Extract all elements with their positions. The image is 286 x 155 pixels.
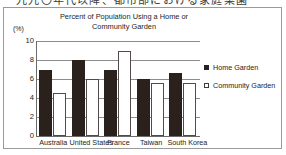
bar-community-garden bbox=[86, 79, 99, 136]
plot-area: 0246810 bbox=[37, 41, 200, 136]
bar-home-garden bbox=[72, 60, 85, 136]
bar-group bbox=[70, 41, 103, 136]
legend-label-community-garden: Community Garden bbox=[213, 81, 275, 90]
legend-item-home-garden: Home Garden bbox=[204, 63, 280, 72]
chart-title-line-1: Percent of Population Using a Home or bbox=[60, 12, 188, 21]
cropped-header-text: 一九九〇年代以降、都市部における家庭菜園 bbox=[4, 0, 248, 6]
y-axis-tick-label: 4 bbox=[30, 94, 34, 102]
legend-swatch-filled-square-icon bbox=[204, 65, 209, 70]
bar-home-garden bbox=[104, 70, 117, 137]
x-axis-category-label: United States bbox=[70, 138, 103, 147]
bar-group bbox=[37, 41, 70, 136]
figure-frame: Percent of Population Using a Home or Co… bbox=[3, 7, 282, 149]
y-axis-unit-label: (%) bbox=[13, 25, 24, 32]
bar-home-garden bbox=[39, 70, 52, 137]
legend-label-home-garden: Home Garden bbox=[213, 63, 258, 72]
cropped-header-text-strip: 一九九〇年代以降、都市部における家庭菜園 bbox=[0, 0, 286, 6]
bar-group bbox=[167, 41, 200, 136]
x-axis-category-label: Australia bbox=[37, 138, 70, 147]
bar-group bbox=[135, 41, 168, 136]
x-axis-line bbox=[36, 136, 200, 137]
bar-community-garden bbox=[151, 83, 164, 136]
bar-community-garden bbox=[118, 51, 131, 137]
bar-community-garden bbox=[53, 93, 66, 136]
y-axis-tick-label: 10 bbox=[26, 37, 34, 45]
x-axis-category-label: South Korea bbox=[167, 138, 200, 147]
bar-group bbox=[102, 41, 135, 136]
y-axis-tick-label: 8 bbox=[30, 56, 34, 64]
bar-community-garden bbox=[183, 83, 196, 136]
bar-home-garden bbox=[137, 79, 150, 136]
x-axis-category-label: France bbox=[102, 138, 135, 147]
legend-item-community-garden: Community Garden bbox=[204, 81, 280, 90]
chart-title-line-2: Community Garden bbox=[92, 22, 156, 31]
legend-swatch-open-square-icon bbox=[204, 83, 209, 88]
bar-home-garden bbox=[169, 73, 182, 136]
y-axis-tick-label: 2 bbox=[30, 113, 34, 121]
y-axis-tick-label: 0 bbox=[30, 132, 34, 140]
chart-title: Percent of Population Using a Home or Co… bbox=[34, 12, 214, 31]
x-axis-category-label: Taiwan bbox=[135, 138, 168, 147]
y-axis-tick-label: 6 bbox=[30, 75, 34, 83]
chart-legend: Home Garden Community Garden bbox=[204, 63, 280, 99]
